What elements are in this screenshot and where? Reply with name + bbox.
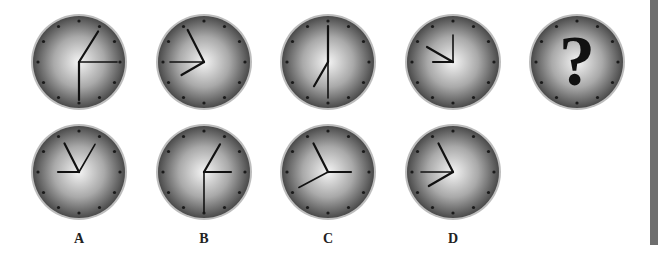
hour-tick [98, 135, 101, 138]
hour-tick [492, 170, 495, 173]
hour-tick [362, 40, 365, 43]
hour-tick [113, 81, 116, 84]
hour-tick [182, 206, 185, 209]
hour-tick [472, 206, 475, 209]
hour-tick [98, 25, 101, 28]
hour-tick [238, 150, 241, 153]
hour-tick [118, 170, 121, 173]
sequence-clock-3 [279, 13, 377, 111]
hour-tick [611, 81, 614, 84]
hour-tick [540, 40, 543, 43]
sequence-clock-2 [155, 13, 253, 111]
hour-tick [243, 170, 246, 173]
hour-tick [238, 81, 241, 84]
hour-tick [98, 206, 101, 209]
hour-tick [472, 96, 475, 99]
hour-tick [487, 150, 490, 153]
hour-tick [451, 211, 454, 214]
hour-tick [285, 170, 288, 173]
hour-tick [416, 81, 419, 84]
hour-tick [243, 60, 246, 63]
hour-tick [36, 60, 39, 63]
hour-tick [487, 40, 490, 43]
hour-tick [534, 60, 537, 63]
hour-tick [326, 211, 329, 214]
hour-tick [42, 40, 45, 43]
hour-tick [167, 81, 170, 84]
hour-tick [611, 40, 614, 43]
option-label-a[interactable]: A [59, 231, 99, 247]
hour-tick [306, 135, 309, 138]
hour-tick [77, 129, 80, 132]
question-clock: ? [528, 13, 626, 111]
hour-tick [540, 81, 543, 84]
option-clock-c[interactable] [279, 123, 377, 221]
hour-tick [42, 81, 45, 84]
hour-tick [616, 60, 619, 63]
hour-tick [202, 101, 205, 104]
hour-tick [182, 25, 185, 28]
hour-tick [410, 60, 413, 63]
hour-tick [113, 150, 116, 153]
hour-tick [347, 206, 350, 209]
hour-tick [182, 96, 185, 99]
sequence-clock-4 [404, 13, 502, 111]
hour-tick [431, 206, 434, 209]
hour-tick [416, 191, 419, 194]
hour-tick [416, 40, 419, 43]
hour-tick [555, 25, 558, 28]
hour-tick [367, 60, 370, 63]
hour-tick [77, 19, 80, 22]
hour-tick [326, 19, 329, 22]
hour-tick [362, 150, 365, 153]
hour-tick [492, 60, 495, 63]
hour-tick [431, 96, 434, 99]
hour-tick [487, 81, 490, 84]
hour-tick [326, 101, 329, 104]
hour-tick [202, 129, 205, 132]
hour-tick [113, 191, 116, 194]
hour-tick [167, 150, 170, 153]
hour-tick [306, 96, 309, 99]
sequence-clock-1 [30, 13, 128, 111]
hour-tick [596, 96, 599, 99]
hour-tick [238, 40, 241, 43]
hour-tick [167, 40, 170, 43]
hour-tick [57, 135, 60, 138]
hour-tick [596, 25, 599, 28]
hour-tick [113, 40, 116, 43]
hour-tick [472, 135, 475, 138]
hour-tick [326, 129, 329, 132]
hour-tick [362, 81, 365, 84]
hour-tick [285, 60, 288, 63]
hour-tick [367, 170, 370, 173]
hour-tick [182, 135, 185, 138]
hour-tick [161, 60, 164, 63]
hour-tick [575, 101, 578, 104]
hour-tick [451, 129, 454, 132]
hour-tick [555, 96, 558, 99]
side-bar [650, 0, 658, 245]
option-label-d[interactable]: D [433, 231, 473, 247]
hour-tick [451, 19, 454, 22]
hour-tick [42, 150, 45, 153]
hour-tick [223, 96, 226, 99]
hour-tick [410, 170, 413, 173]
hour-tick [161, 170, 164, 173]
option-label-c[interactable]: C [308, 231, 348, 247]
option-clock-b[interactable] [155, 123, 253, 221]
option-label-b[interactable]: B [184, 231, 224, 247]
hour-tick [98, 96, 101, 99]
hour-tick [347, 96, 350, 99]
hour-tick [291, 150, 294, 153]
hour-tick [347, 135, 350, 138]
hour-tick [472, 25, 475, 28]
option-clock-d[interactable] [404, 123, 502, 221]
hour-tick [347, 25, 350, 28]
hour-tick [36, 170, 39, 173]
option-clock-a[interactable] [30, 123, 128, 221]
hour-tick [487, 191, 490, 194]
hour-tick [223, 25, 226, 28]
hour-tick [167, 191, 170, 194]
hour-tick [77, 101, 80, 104]
